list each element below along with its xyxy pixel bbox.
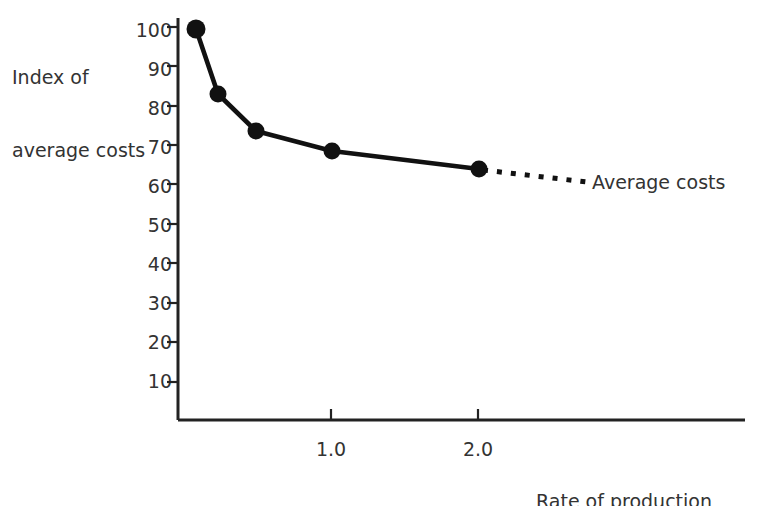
y-axis-ticks xyxy=(167,27,178,382)
chart-figure: Index of average costs 100 90 80 70 60 5… xyxy=(0,0,780,506)
plot-area xyxy=(0,0,780,506)
data-point-marker xyxy=(248,123,265,140)
data-point-marker xyxy=(324,143,341,160)
data-point-marker xyxy=(471,161,488,178)
series-line-average-costs-extrapolated xyxy=(483,170,587,182)
series-markers xyxy=(187,20,488,178)
x-axis-ticks xyxy=(331,409,478,420)
axis-lines xyxy=(178,18,745,420)
data-point-marker xyxy=(210,86,227,103)
data-point-marker xyxy=(187,20,206,39)
